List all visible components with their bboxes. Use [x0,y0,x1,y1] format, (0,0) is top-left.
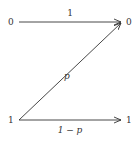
edge-1-to-0-label: p [64,71,70,81]
edge-0-to-0-label: 1 [67,8,73,18]
output-0-label: 0 [126,17,132,27]
z-channel-diagram: 0 1 0 1 1 p 1 − p [0,0,140,141]
input-1-label: 1 [8,115,14,125]
output-1-label: 1 [126,115,132,125]
edge-1-to-1-label: 1 − p [58,125,83,135]
edge-1-to-0 [19,23,121,120]
input-0-label: 0 [8,17,14,27]
